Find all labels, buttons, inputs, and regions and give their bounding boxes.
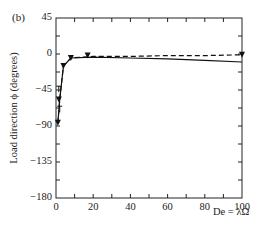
plot-frame (56, 18, 242, 198)
triangle-marker (60, 63, 66, 69)
triangle-marker (239, 52, 245, 58)
plot-area (0, 0, 267, 234)
tee-marker (57, 106, 62, 112)
solid-curve (58, 57, 242, 123)
triangle-marker (56, 97, 62, 103)
dashed-curve (58, 55, 242, 123)
